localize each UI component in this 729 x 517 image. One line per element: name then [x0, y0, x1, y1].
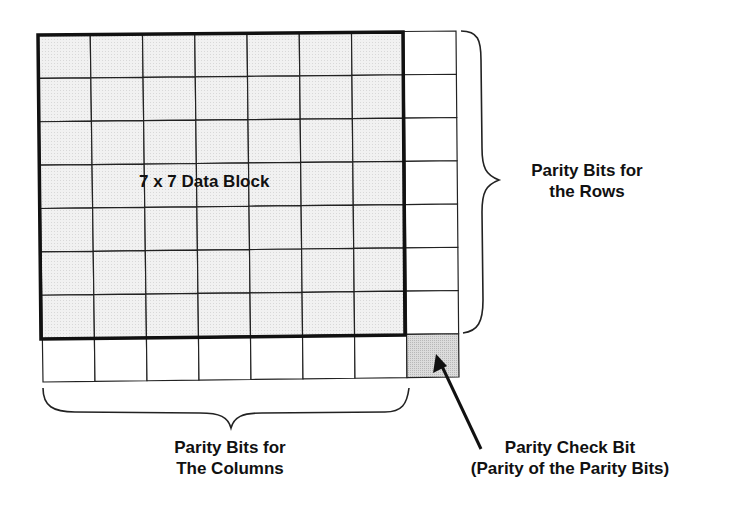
data-cell: [353, 161, 406, 205]
data-cell: [301, 205, 354, 249]
data-cell: [39, 78, 92, 122]
data-cell: [41, 251, 94, 295]
parity-check-cell: [407, 334, 459, 378]
column-parity-cell: [251, 336, 304, 380]
row-parity-cell: [405, 118, 458, 162]
check-bit-arrow: [440, 362, 481, 449]
column-parity-label-line1: Parity Bits for: [155, 437, 305, 458]
row-parity-cell: [405, 161, 458, 205]
row-parity-cell: [404, 31, 457, 75]
column-parity-cell: [198, 336, 251, 380]
data-cell: [94, 294, 147, 338]
column-parity-cell: [303, 335, 355, 379]
data-cell: [250, 249, 303, 293]
data-cell: [302, 292, 355, 336]
row-parity-cell: [405, 204, 458, 248]
data-cell: [93, 251, 146, 295]
data-cell: [198, 293, 251, 337]
data-cell: [247, 33, 300, 77]
data-cell: [302, 248, 355, 292]
data-cell: [144, 120, 197, 164]
column-parity-cell: [94, 337, 147, 381]
check-bit-label-line1: Parity Check Bit: [440, 437, 700, 458]
data-cell: [248, 76, 301, 120]
data-cell: [352, 32, 405, 76]
row-parity-label: Parity Bits for the Rows: [512, 160, 662, 202]
data-cell: [145, 250, 198, 294]
row-parity-brace: [461, 31, 499, 333]
data-cell: [354, 291, 406, 335]
parity-diagram: 7 x 7 Data Block Parity Bits for the Row…: [0, 0, 729, 517]
data-cell: [91, 121, 144, 165]
data-cell: [196, 120, 249, 164]
data-cell: [40, 165, 93, 209]
data-cell: [92, 164, 145, 208]
row-parity-cell: [406, 291, 458, 335]
column-parity-brace: [43, 388, 409, 428]
data-cell: [146, 293, 199, 337]
data-cell: [38, 35, 91, 79]
data-cell: [301, 162, 354, 206]
data-cell: [353, 205, 406, 249]
data-cell: [249, 206, 302, 250]
data-cell: [299, 32, 352, 76]
data-cell: [248, 119, 301, 163]
column-parity-cell: [42, 338, 95, 382]
data-cell: [42, 295, 95, 339]
row-parity-cell: [404, 74, 457, 118]
data-cell: [93, 207, 146, 251]
data-cell: [354, 248, 407, 292]
check-bit-label: Parity Check Bit (Parity of the Parity B…: [440, 437, 700, 479]
data-cell: [352, 75, 405, 119]
data-cell: [143, 34, 196, 78]
column-parity-cell: [146, 337, 199, 381]
data-block-label: 7 x 7 Data Block: [139, 172, 269, 192]
data-cell: [352, 118, 405, 162]
row-parity-label-line1: Parity Bits for: [512, 160, 662, 181]
data-cell: [90, 34, 143, 78]
column-parity-cell: [355, 334, 407, 378]
data-cell: [39, 121, 92, 165]
row-parity-cell: [406, 247, 458, 291]
column-parity-label-line2: The Columns: [155, 458, 305, 479]
data-cell: [250, 292, 303, 336]
row-parity-label-line2: the Rows: [512, 181, 662, 202]
data-cell: [145, 207, 198, 251]
data-cell: [197, 250, 250, 294]
data-cell: [300, 75, 353, 119]
column-parity-label: Parity Bits for The Columns: [155, 437, 305, 479]
data-cell: [195, 33, 248, 77]
data-cell: [197, 206, 250, 250]
data-cell: [300, 119, 353, 163]
data-cell: [143, 77, 196, 121]
data-cell: [195, 76, 248, 120]
data-cell: [91, 77, 144, 121]
check-bit-label-line2: (Parity of the Parity Bits): [440, 458, 700, 479]
data-cell: [41, 208, 94, 252]
